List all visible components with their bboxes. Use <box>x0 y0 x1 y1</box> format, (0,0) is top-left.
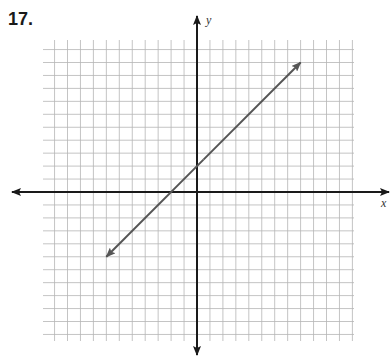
axes <box>12 16 389 355</box>
x-axis-label: x <box>381 196 386 211</box>
coordinate-plane <box>0 0 391 356</box>
y-axis-label: y <box>206 13 211 28</box>
grid-lines <box>43 40 354 341</box>
line-segment <box>203 63 300 160</box>
plotted-line <box>106 63 300 257</box>
line-segment <box>106 160 203 257</box>
